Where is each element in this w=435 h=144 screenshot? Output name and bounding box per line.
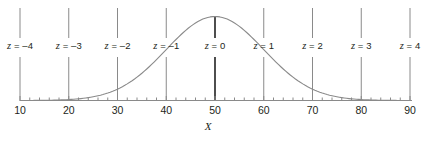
z-label-value: = 3 <box>358 40 372 51</box>
x-tick-label-90: 90 <box>404 104 416 116</box>
z-label-variable: z <box>153 40 157 51</box>
z-label--4: z = –4 <box>7 40 33 51</box>
z-label-variable: z <box>7 40 11 51</box>
x-axis-minor-ticks <box>20 96 410 101</box>
z-label-variable: z <box>205 40 209 51</box>
z-label-variable: z <box>104 40 108 51</box>
x-tick-label-30: 30 <box>112 104 124 116</box>
chart-canvas <box>0 0 435 144</box>
x-tick-label-60: 60 <box>258 104 270 116</box>
z-label--3: z = –3 <box>56 40 82 51</box>
z-label-value: = –3 <box>63 40 82 51</box>
z-gridlines-lower <box>20 57 410 101</box>
z-label--1: z = –1 <box>153 40 179 51</box>
z-label-value: = –1 <box>160 40 179 51</box>
z-label-variable: z <box>56 40 60 51</box>
x-axis-title: X <box>205 120 212 132</box>
z-label-4: z = 4 <box>400 40 421 51</box>
x-tick-label-10: 10 <box>14 104 26 116</box>
x-tick-label-20: 20 <box>63 104 75 116</box>
z-label-variable: z <box>302 40 306 51</box>
z-label-variable: z <box>351 40 355 51</box>
z-label-variable: z <box>253 40 257 51</box>
x-tick-label-40: 40 <box>160 104 172 116</box>
z-label-value: = 1 <box>260 40 274 51</box>
x-tick-label-50: 50 <box>209 104 221 116</box>
z-label--2: z = –2 <box>104 40 130 51</box>
z-label-value: = –4 <box>14 40 33 51</box>
z-label-3: z = 3 <box>351 40 372 51</box>
z-label-1: z = 1 <box>253 40 274 51</box>
z-label-variable: z <box>400 40 404 51</box>
x-tick-label-70: 70 <box>307 104 319 116</box>
x-tick-label-80: 80 <box>355 104 367 116</box>
z-label-value: = –2 <box>111 40 130 51</box>
z-label-value: = 4 <box>407 40 421 51</box>
z-label-value: = 2 <box>309 40 323 51</box>
z-label-2: z = 2 <box>302 40 323 51</box>
normal-distribution-figure: z = –4z = –3z = –2z = –1z = 0z = 1z = 2z… <box>0 0 435 144</box>
z-label-0: z = 0 <box>205 40 226 51</box>
z-gridlines-upper <box>20 8 410 38</box>
z-label-value: = 0 <box>212 40 226 51</box>
